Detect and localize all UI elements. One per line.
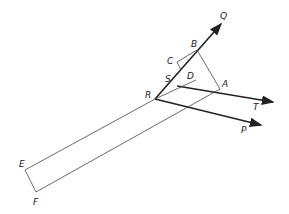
ray-RP [155,99,261,125]
label-Q: Q [220,11,227,21]
segment-RE [25,99,155,170]
label-A: A [221,79,228,89]
segment-BA [197,50,220,89]
segment-BC [177,50,197,62]
segment-FA [36,89,220,192]
label-F: F [33,197,39,207]
geometry-diagram: Q B C S D R A T P E F [0,0,289,214]
label-P: P [241,125,247,135]
label-B: B [191,39,197,49]
label-E: E [19,159,25,169]
segment-EF [25,170,36,192]
segment-RD [155,80,196,99]
segment-CS [177,62,181,70]
label-C: C [167,56,174,66]
label-T: T [253,102,260,112]
label-S: S [165,74,171,84]
label-R: R [145,90,151,100]
label-D: D [187,71,194,81]
